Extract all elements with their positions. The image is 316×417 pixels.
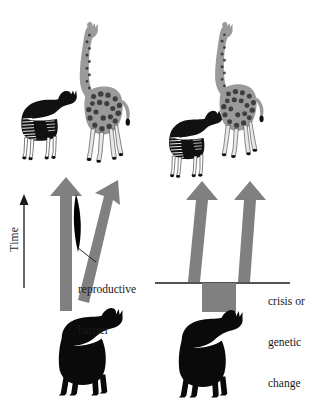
crisis-label-line1: crisis or <box>268 295 305 309</box>
right-panel-okapi <box>169 110 223 177</box>
speciation-comparison-figure: Time reproductive barrier crisis or gene… <box>0 0 316 417</box>
reproductive-barrier-label: reproductive barrier <box>78 256 136 365</box>
reproductive-barrier-label-line1: reproductive <box>78 283 136 297</box>
right-arrow-giraffe-lineage <box>234 181 266 282</box>
right-arrow-okapi-lineage <box>186 181 218 282</box>
right-panel-ancestor-silhouette <box>179 310 243 397</box>
right-panel-giraffe <box>215 22 264 158</box>
left-panel-giraffe <box>80 22 130 163</box>
right-ancestral-stem <box>202 283 236 312</box>
reproductive-barrier-wedge <box>74 194 81 252</box>
reproductive-barrier-label-line2: barrier <box>78 324 136 338</box>
crisis-label-line3: change <box>268 377 305 391</box>
time-axis-label: Time <box>0 227 35 264</box>
crisis-label-line2: genetic <box>268 336 305 350</box>
left-panel-okapi <box>21 90 77 160</box>
crisis-genetic-change-label: crisis or genetic change <box>268 268 305 417</box>
